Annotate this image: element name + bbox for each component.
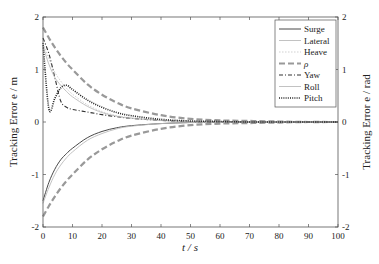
series-line--negative- bbox=[43, 122, 338, 217]
legend-label: Heave bbox=[304, 47, 327, 57]
series-line-lateral bbox=[43, 122, 338, 203]
y-right-tick-label: 2 bbox=[342, 12, 347, 22]
y-right-tick-label: -1 bbox=[342, 170, 350, 180]
x-axis-label: t / s bbox=[182, 241, 198, 253]
legend-label: Lateral bbox=[304, 36, 330, 46]
x-tick-label: 0 bbox=[41, 231, 46, 241]
y-axis-left-label: Tracking Error e / m bbox=[7, 77, 19, 167]
series-line-surge bbox=[43, 122, 338, 201]
x-tick-label: 60 bbox=[216, 231, 226, 241]
x-tick-label: 80 bbox=[275, 231, 285, 241]
x-tick-label: 50 bbox=[186, 231, 196, 241]
legend-label: Yaw bbox=[304, 70, 321, 80]
y-left-tick-label: 1 bbox=[35, 65, 40, 75]
x-tick-label: 10 bbox=[68, 231, 78, 241]
y-axis-right-ticks: -2-1012 bbox=[335, 12, 350, 232]
legend-label: ρ bbox=[303, 59, 309, 69]
y-right-tick-label: 0 bbox=[342, 117, 347, 127]
legend: SurgeLateralHeaveρYawRollPitch bbox=[275, 20, 336, 107]
x-tick-label: 70 bbox=[245, 231, 255, 241]
y-left-tick-label: 2 bbox=[35, 12, 40, 22]
legend-label: Roll bbox=[304, 82, 320, 92]
y-axis-right-label: Tracking Error e / rad bbox=[360, 74, 372, 170]
chart-canvas: 0102030405060708090100 -2-1012 -2-1012 t… bbox=[0, 0, 379, 264]
legend-label: Surge bbox=[304, 24, 325, 34]
y-left-tick-label: 0 bbox=[35, 117, 40, 127]
y-right-tick-label: 1 bbox=[342, 65, 347, 75]
y-right-tick-label: -2 bbox=[342, 222, 350, 232]
x-tick-label: 30 bbox=[127, 231, 137, 241]
y-left-tick-label: -2 bbox=[32, 222, 40, 232]
x-tick-label: 100 bbox=[331, 231, 345, 241]
x-tick-label: 20 bbox=[98, 231, 108, 241]
legend-label: Pitch bbox=[304, 93, 323, 103]
x-tick-label: 90 bbox=[304, 231, 314, 241]
x-tick-label: 40 bbox=[157, 231, 167, 241]
y-left-tick-label: -1 bbox=[32, 170, 40, 180]
